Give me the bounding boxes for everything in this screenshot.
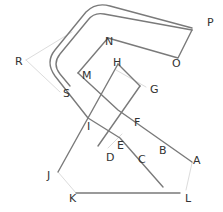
diagram-lines xyxy=(0,0,223,212)
label-F: F xyxy=(134,117,140,128)
label-J: J xyxy=(47,170,50,181)
label-O: O xyxy=(172,58,181,69)
label-K: K xyxy=(69,193,76,204)
label-E: E xyxy=(117,140,124,151)
label-C: C xyxy=(138,154,146,165)
label-S: S xyxy=(63,88,70,99)
label-D: D xyxy=(106,152,114,163)
label-P: P xyxy=(207,17,214,28)
label-M: M xyxy=(82,70,92,81)
main-lines xyxy=(50,5,192,193)
label-I: I xyxy=(87,121,90,132)
label-G: G xyxy=(150,84,159,95)
label-L: L xyxy=(185,193,191,204)
label-A: A xyxy=(193,155,201,166)
label-H: H xyxy=(113,57,121,68)
label-N: N xyxy=(105,36,113,47)
label-B: B xyxy=(159,145,167,156)
label-R: R xyxy=(15,56,23,67)
diagram-canvas: P N O R M H G S F I E B D C A J K L xyxy=(0,0,223,212)
